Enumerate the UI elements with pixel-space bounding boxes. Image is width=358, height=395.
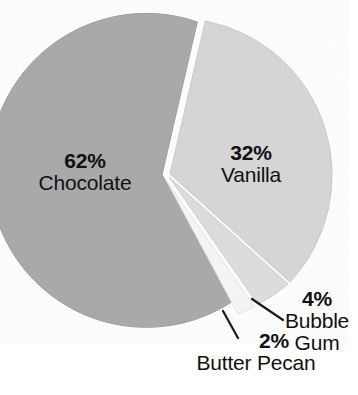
- slice-percent-butter-pecan: 2%: [194, 330, 354, 352]
- slice-name-butter-pecan: Butter Pecan: [158, 352, 354, 374]
- slice-percent-bubble-gum: 4%: [276, 288, 358, 310]
- slice-name-chocolate: Chocolate: [10, 172, 160, 194]
- slice-percent-vanilla: 32%: [194, 142, 308, 164]
- slice-name-vanilla: Vanilla: [194, 164, 308, 186]
- slice-label-chocolate: 62% Chocolate: [10, 150, 160, 194]
- slice-percent-chocolate: 62%: [10, 150, 160, 172]
- slice-label-vanilla: 32% Vanilla: [194, 142, 308, 186]
- pie-chart: 62% Chocolate 32% Vanilla 4% Bubble Gum …: [0, 0, 358, 395]
- slice-label-butter-pecan: 2% Butter Pecan: [158, 330, 354, 374]
